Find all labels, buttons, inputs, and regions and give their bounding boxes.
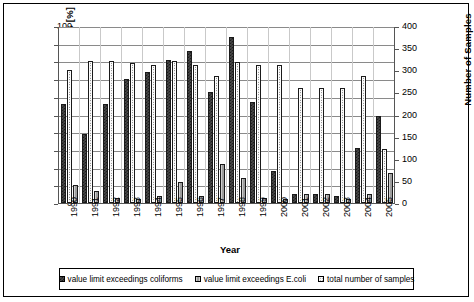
y-axis-right-tick-mark <box>395 138 399 139</box>
bar-group <box>248 27 269 203</box>
y-axis-right-tick-label: 350 <box>402 44 432 53</box>
bar-coliforms <box>292 194 297 203</box>
bar-total-samples <box>361 76 366 203</box>
legend-swatch-icon <box>318 276 324 282</box>
y-axis-right-tick-mark <box>395 116 399 117</box>
bar-coliforms <box>145 72 150 203</box>
bar-group <box>206 27 227 203</box>
bar-coliforms <box>229 37 234 203</box>
bar-group <box>80 27 101 203</box>
y-axis-right-tick-label: 50 <box>402 177 432 186</box>
y-axis-right-tick-mark <box>395 27 399 28</box>
bar-total-samples <box>214 76 219 203</box>
x-axis-tick-label: 1999 <box>258 197 268 217</box>
legend-item: value limit exceedings coliforms <box>59 275 183 284</box>
bar-coliforms <box>334 196 339 203</box>
bar-total-samples <box>256 65 261 203</box>
bar-coliforms <box>166 60 171 203</box>
bar-total-samples <box>340 88 345 203</box>
y-axis-right-tick-mark <box>395 160 399 161</box>
y-axis-right-title: Number of Samples <box>462 0 473 125</box>
x-axis-tick-label: 1992 <box>111 197 121 217</box>
bar-total-samples <box>151 65 156 203</box>
bar-total-samples <box>298 88 303 203</box>
bar-total-samples <box>88 61 93 203</box>
bar-total-samples <box>172 61 177 203</box>
bar-coliforms <box>271 171 276 203</box>
y-axis-right-tick-mark <box>395 182 399 183</box>
bar-group <box>353 27 374 203</box>
x-axis-tick-label: 2000 <box>279 197 289 217</box>
x-axis-tick: 1992 <box>100 205 121 245</box>
bar-group <box>101 27 122 203</box>
y-axis-right-tick-label: 250 <box>402 88 432 97</box>
y-axis-right-tick-label: 0 <box>402 199 432 208</box>
chart-frame: limit exceedings [%] Number of Samples Y… <box>3 3 469 297</box>
x-axis-tick: 2001 <box>290 205 311 245</box>
legend-label: total number of samples <box>327 275 414 284</box>
legend-swatch-icon <box>59 276 65 282</box>
x-axis-tick-label: 2003 <box>342 197 352 217</box>
x-axis-tick-label: 1993 <box>132 197 142 217</box>
bar-coliforms <box>61 104 66 203</box>
x-axis-tick: 1996 <box>184 205 205 245</box>
bar-coliforms <box>376 116 381 203</box>
x-axis-tick: 1999 <box>248 205 269 245</box>
bar-total-samples <box>67 70 72 203</box>
x-axis-tick: 2000 <box>269 205 290 245</box>
bar-total-samples <box>319 88 324 203</box>
y-axis-right-tick-label: 400 <box>402 22 432 31</box>
y-axis-right-tick-label: 200 <box>402 111 432 120</box>
bar-coliforms <box>103 104 108 203</box>
y-axis-right-tick-label: 100 <box>402 155 432 164</box>
legend-label: value limit exceedings coliforms <box>68 275 183 284</box>
bar-group <box>122 27 143 203</box>
bar-total-samples <box>235 62 240 203</box>
x-axis-tick: 1993 <box>121 205 142 245</box>
chart-legend: value limit exceedings coliformsvalue li… <box>59 268 414 290</box>
bar-coliforms <box>187 51 192 203</box>
plot-area <box>58 27 395 204</box>
bar-group <box>143 27 164 203</box>
y-axis-right-tick-mark <box>395 49 399 50</box>
bar-total-samples <box>109 61 114 203</box>
x-axis-tick-labels: 1990199119921993199419951996199719981999… <box>58 205 395 245</box>
bar-coliforms <box>82 134 87 203</box>
legend-label: value limit exceedings E.coli <box>204 275 306 284</box>
x-axis-title: Year <box>10 244 450 255</box>
x-axis-tick-label: 1996 <box>195 197 205 217</box>
bar-group <box>164 27 185 203</box>
x-axis-tick-label: 2002 <box>321 197 331 217</box>
bar-coliforms <box>313 194 318 203</box>
bar-coliforms <box>250 102 255 203</box>
bar-total-samples <box>277 65 282 203</box>
y-axis-right-tick-mark <box>395 204 399 205</box>
y-axis-right-tick-mark <box>395 93 399 94</box>
x-axis-tick: 2004 <box>353 205 374 245</box>
bar-group <box>374 27 394 203</box>
bar-group <box>185 27 206 203</box>
bar-total-samples <box>130 63 135 203</box>
x-axis-tick-label: 1997 <box>216 197 226 217</box>
bar-group <box>290 27 311 203</box>
y-axis-right-tick-label: 300 <box>402 66 432 75</box>
x-axis-tick-label: 2004 <box>363 197 373 217</box>
x-axis-tick: 2005 <box>374 205 395 245</box>
x-axis-tick-label: 1998 <box>237 197 247 217</box>
x-axis-tick-label: 1994 <box>153 197 163 217</box>
legend-swatch-icon <box>195 276 201 282</box>
x-axis-tick: 1995 <box>163 205 184 245</box>
x-axis-tick-label: 2005 <box>384 197 394 217</box>
x-axis-tick: 2003 <box>332 205 353 245</box>
bar-group <box>227 27 248 203</box>
x-axis-tick-label: 1991 <box>90 197 100 217</box>
x-axis-tick-label: 1995 <box>174 197 184 217</box>
bar-group <box>311 27 332 203</box>
bar-coliforms <box>208 92 213 204</box>
x-axis-tick: 1997 <box>205 205 226 245</box>
bar-group <box>269 27 290 203</box>
bar-total-samples <box>382 149 387 203</box>
x-axis-tick: 2002 <box>311 205 332 245</box>
chart-plot-container: limit exceedings [%] Number of Samples Y… <box>10 9 462 257</box>
x-axis-tick-label: 2001 <box>300 197 310 217</box>
